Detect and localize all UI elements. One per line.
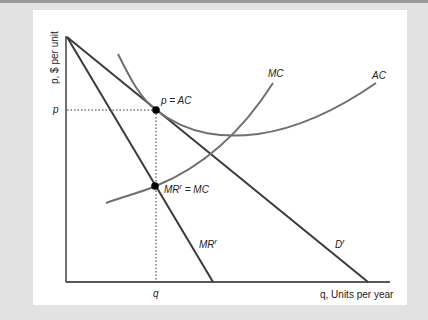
guide-lines xyxy=(67,110,156,282)
monopolistic-competition-diagram: p, $ per unit q, Units per year p q MC A… xyxy=(0,0,428,320)
y-axis-label: p, $ per unit xyxy=(49,31,60,84)
p-equals-ac-label: p = AC xyxy=(160,95,192,106)
demand-curve xyxy=(67,37,368,282)
ac-label: AC xyxy=(371,70,387,81)
mc-label: MC xyxy=(268,68,284,79)
mr-equals-mc-point xyxy=(151,182,159,190)
p-equals-ac-point xyxy=(152,106,160,114)
x-axis-label: q, Units per year xyxy=(320,289,394,300)
average-cost-curve xyxy=(118,54,376,136)
x-tick-q: q xyxy=(153,288,159,299)
mr-equals-mc-label: MRr = MC xyxy=(164,183,210,195)
y-tick-p: p xyxy=(52,104,59,115)
marginal-revenue-curve xyxy=(67,37,213,282)
demand-label: Dr xyxy=(335,238,345,250)
mr-label: MRr xyxy=(199,238,218,250)
